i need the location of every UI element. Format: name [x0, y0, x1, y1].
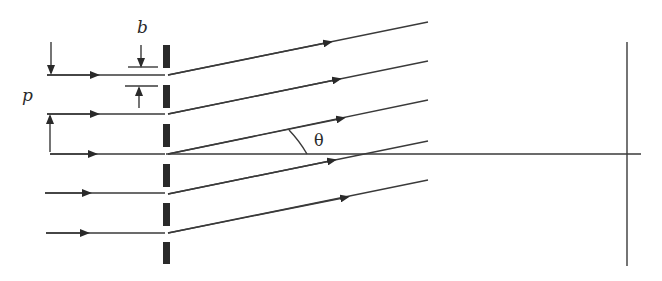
slit-width-label: b [137, 17, 148, 37]
incident-rays [45, 75, 165, 233]
angle-arc [289, 130, 307, 154]
diffracted-ray-arrow [168, 42, 331, 75]
diffracted-ray-arrow [168, 79, 340, 114]
period-dimension: p [22, 42, 51, 152]
grating-bar [163, 203, 170, 226]
grating-bar [163, 242, 170, 264]
diffracted-ray-arrow [168, 160, 335, 194]
angle-label: θ [314, 131, 324, 150]
grating-bar [163, 45, 170, 68]
diffraction-diagram: θ p b [0, 0, 662, 281]
grating-bar [163, 124, 170, 147]
period-label: p [22, 85, 33, 105]
grating-bar [163, 85, 170, 108]
slit-width-dimension: b [125, 17, 158, 108]
diffracted-ray-arrow [168, 197, 348, 233]
grating-bar [163, 164, 170, 187]
diffracted-rays [168, 22, 428, 233]
